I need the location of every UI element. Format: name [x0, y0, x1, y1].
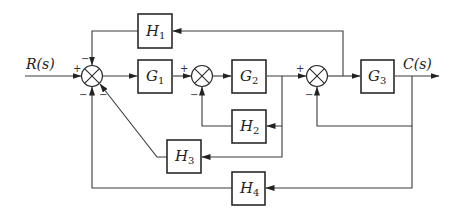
h2-subscript: 2: [253, 125, 259, 136]
block-g2: G2: [232, 60, 266, 93]
summing-junction-s2: + −: [180, 63, 213, 100]
s2-sign-bottom: −: [190, 89, 198, 100]
h4-feedback-in-line: [266, 126, 412, 188]
g1-letter: G: [146, 67, 158, 85]
h1-letter: H: [145, 22, 160, 40]
h4-subscript: 4: [253, 187, 259, 198]
h3-subscript: 3: [188, 155, 194, 166]
h4-feedback-out-line: [92, 87, 232, 188]
block-g1: G1: [138, 60, 172, 93]
g1-subscript: 1: [158, 75, 164, 86]
s2-sign-left: +: [180, 63, 188, 74]
g2-subscript: 2: [252, 75, 258, 86]
s1-sign-left: +: [73, 63, 81, 74]
h3-letter: H: [174, 147, 189, 165]
input-label: R(s): [25, 56, 55, 72]
s3-sign-bottom: −: [305, 89, 313, 100]
h1-subscript: 1: [159, 30, 165, 41]
g3-letter: G: [368, 67, 380, 85]
g3-subscript: 3: [380, 75, 386, 86]
s1-sign-bottom-left: −: [79, 89, 87, 100]
block-g3: G3: [361, 60, 394, 93]
h3-feedback-out-line: [100, 84, 167, 157]
h2-feedback-in-line: [267, 76, 282, 126]
summing-junction-s3: + −: [296, 63, 328, 100]
h2-feedback-out-line: [202, 87, 232, 126]
block-h1: H1: [138, 14, 172, 48]
s1-sign-top: −: [81, 53, 89, 64]
s1-sign-bottom-right: −: [99, 89, 107, 100]
output-label: C(s): [403, 56, 432, 72]
h2-letter: H: [239, 117, 254, 135]
s3-sign-left: +: [296, 63, 304, 74]
g2-letter: G: [240, 67, 252, 85]
block-diagram: + − − − + − + − H1 G1 G2 G3 H2: [0, 0, 456, 211]
h1-feedback-out-line: [92, 31, 138, 65]
block-h2: H2: [232, 110, 266, 143]
block-h4: H4: [232, 172, 265, 205]
h4-letter: H: [239, 179, 254, 197]
block-h3: H3: [167, 140, 201, 173]
